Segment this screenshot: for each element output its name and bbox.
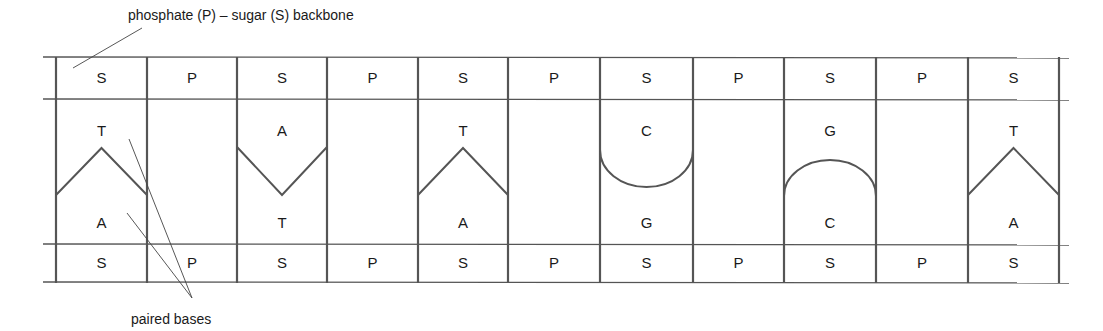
base-pair-TA: TA	[968, 122, 1059, 231]
base-pairs: TAATTACGGCTA	[56, 122, 1059, 231]
paired-bases-pointer-line	[129, 139, 192, 298]
phosphate-label: P	[367, 254, 377, 271]
base-pair-TA: TA	[56, 122, 147, 231]
phosphate-label: P	[733, 69, 743, 86]
sugar-label: S	[277, 69, 287, 86]
phosphate-label: P	[733, 254, 743, 271]
backbone-grid	[43, 57, 1069, 283]
phosphate-label: P	[917, 254, 927, 271]
sugar-label: S	[825, 254, 835, 271]
sugar-label: S	[458, 69, 468, 86]
sugar-label: S	[277, 254, 287, 271]
base-pair-TA: TA	[418, 122, 508, 231]
base-bond-shape	[56, 148, 147, 195]
sugar-label: S	[641, 254, 651, 271]
base-top-label: C	[641, 122, 652, 139]
base-bond-shape	[237, 147, 327, 195]
base-bottom-label: A	[96, 214, 106, 231]
base-top-label: T	[1009, 122, 1018, 139]
backbone-row-line	[43, 99, 1069, 100]
base-top-label: T	[97, 122, 106, 139]
phosphate-label: P	[187, 69, 197, 86]
base-bond-shape	[600, 150, 693, 187]
sugar-label: S	[1008, 254, 1018, 271]
base-bottom-label: A	[1008, 214, 1018, 231]
sugar-label: S	[96, 254, 106, 271]
base-pair-GC: GC	[784, 122, 876, 231]
base-bond-shape	[784, 160, 876, 196]
base-bottom-label: C	[825, 214, 836, 231]
backbone-row-line	[43, 57, 1069, 58]
backbone-row-line	[43, 244, 1069, 245]
base-bottom-label: G	[641, 214, 653, 231]
phosphate-label: P	[917, 69, 927, 86]
sugar-label: S	[1008, 69, 1018, 86]
pointer-lines	[73, 28, 192, 298]
sugar-label: S	[96, 69, 106, 86]
base-top-label: A	[277, 122, 287, 139]
dna-ladder-diagram: SPSPSPSPSPSSPSPSPSPSPS TAATTACGGCTA	[0, 0, 1103, 331]
phosphate-label: P	[187, 254, 197, 271]
paired-bases-pointer-line	[127, 213, 192, 298]
base-bond-shape	[968, 148, 1059, 195]
base-bottom-label: T	[277, 214, 286, 231]
base-pair-AT: AT	[237, 122, 327, 231]
phosphate-label: P	[549, 69, 559, 86]
base-top-label: T	[458, 122, 467, 139]
base-pair-CG: CG	[600, 122, 693, 231]
base-bond-shape	[418, 148, 508, 195]
sugar-label: S	[458, 254, 468, 271]
sugar-label: S	[641, 69, 651, 86]
backbone-pointer-line	[73, 28, 142, 68]
base-top-label: G	[824, 122, 836, 139]
sugar-label: S	[825, 69, 835, 86]
base-bottom-label: A	[458, 214, 468, 231]
phosphate-label: P	[549, 254, 559, 271]
phosphate-label: P	[367, 69, 377, 86]
backbone-row-line	[43, 282, 1069, 283]
